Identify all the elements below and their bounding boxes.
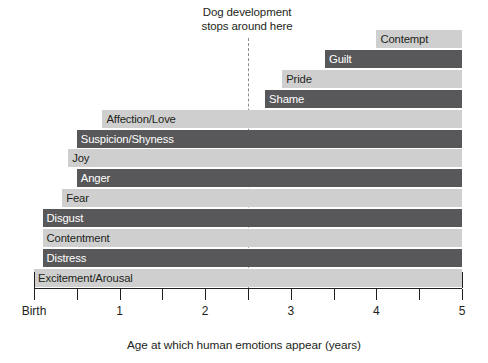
bar-row: Pride <box>282 70 462 88</box>
bar-label: Shame <box>265 93 304 105</box>
x-axis-tick-label: 1 <box>116 304 123 318</box>
bar-label: Suspicion/Shyness <box>77 133 174 145</box>
x-axis-tick-label: 4 <box>373 304 380 318</box>
x-axis-tick <box>205 289 206 300</box>
bar-row: Affection/Love <box>102 110 462 128</box>
bar-label: Guilt <box>325 53 351 65</box>
x-axis-tick <box>376 289 377 300</box>
bar-row: Contempt <box>376 30 462 48</box>
bar-row: Contentment <box>43 229 462 247</box>
bar-label: Contempt <box>376 33 428 45</box>
bar-row: Shame <box>265 90 462 108</box>
x-axis-right-cap <box>462 272 463 288</box>
bar-label: Fear <box>62 192 89 204</box>
x-axis-title: Age at which human emotions appear (year… <box>0 338 488 352</box>
x-axis-tick <box>334 289 335 300</box>
x-axis-tick <box>462 289 463 300</box>
x-axis-tick-label: 2 <box>202 304 209 318</box>
x-axis-tick-label: Birth <box>22 304 47 318</box>
x-axis-tick <box>77 289 78 300</box>
emotion-timeline-chart: Dog development stops around here Contem… <box>0 0 488 363</box>
bar-label: Pride <box>282 73 312 85</box>
bar-label: Excitement/Arousal <box>34 272 133 284</box>
bar-label: Affection/Love <box>102 113 175 125</box>
bar-label: Anger <box>77 172 110 184</box>
bar-label: Disgust <box>43 212 84 224</box>
bar-row: Anger <box>77 169 462 187</box>
bar-row: Fear <box>62 189 462 207</box>
x-axis-tick <box>162 289 163 300</box>
bar-label: Distress <box>43 252 87 264</box>
x-axis-tick <box>248 289 249 300</box>
bar-row: Guilt <box>325 50 462 68</box>
bar-row: Excitement/Arousal <box>34 269 462 287</box>
x-axis-tick <box>34 289 35 300</box>
bar-row: Disgust <box>43 209 462 227</box>
bar-row: Joy <box>68 149 462 167</box>
bars-layer: ContemptGuiltPrideShameAffection/LoveSus… <box>0 0 488 300</box>
bar-row: Distress <box>43 249 462 267</box>
bar-label: Joy <box>68 152 89 164</box>
x-axis-tick <box>120 289 121 300</box>
x-axis-left-cap <box>34 272 35 288</box>
bar-label: Contentment <box>43 232 110 244</box>
x-axis-tick-label: 5 <box>459 304 466 318</box>
x-axis-tick <box>419 289 420 300</box>
bar-row: Suspicion/Shyness <box>77 130 462 148</box>
x-axis-tick <box>291 289 292 300</box>
x-axis-tick-label: 3 <box>287 304 294 318</box>
